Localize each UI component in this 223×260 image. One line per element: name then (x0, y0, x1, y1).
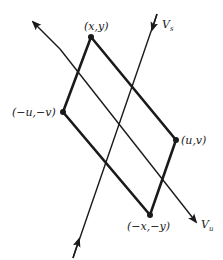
stable-arrow-top-icon (152, 14, 157, 30)
point-uv (173, 137, 179, 143)
unstable-manifold-line (33, 22, 196, 222)
label-uv: (u,v) (181, 134, 206, 147)
diagram-canvas: (x,y) (u,v) (−x,−y) (−u,−v) Vs Vu (0, 0, 223, 260)
stable-arrow-bottom-icon (73, 239, 79, 258)
point-xy (88, 34, 94, 40)
label-neg-uv: (−u,−v) (12, 106, 56, 119)
parallelogram (63, 37, 176, 215)
point-neg-uv (60, 109, 66, 115)
label-vs: Vs (162, 18, 174, 33)
label-neg-xy: (−x,−y) (127, 220, 170, 233)
label-vu: Vu (201, 218, 214, 233)
label-xy: (x,y) (84, 20, 109, 33)
point-neg-xy (147, 212, 153, 218)
